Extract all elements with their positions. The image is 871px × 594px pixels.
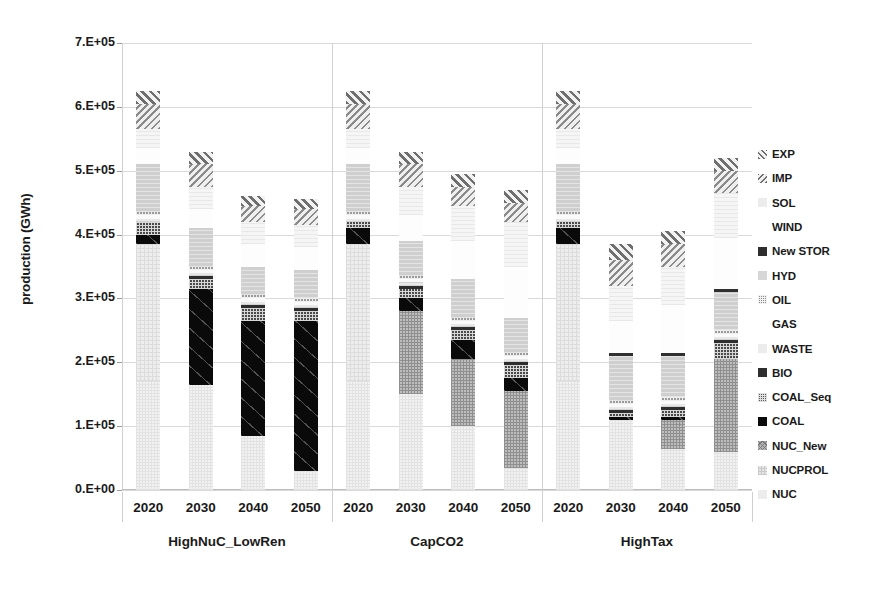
x-axis-group-tick	[332, 492, 333, 522]
x-axis: 2020203020402050202020302040205020202030…	[122, 492, 752, 592]
bar-segment-hyd	[399, 241, 423, 276]
bar-segment-coal-seq	[189, 279, 213, 289]
bar-stack[interactable]	[399, 43, 423, 490]
legend-item[interactable]: OIL	[758, 288, 870, 312]
bar-segment-imp	[609, 260, 633, 286]
bar-segment-imp	[241, 206, 265, 222]
legend-item[interactable]: WASTE	[758, 336, 870, 360]
legend-item[interactable]: WIND	[758, 215, 870, 239]
y-tick-label: 6.E+05	[75, 99, 115, 113]
x-axis-year-label: 2030	[186, 500, 216, 515]
bar-segment-exp	[556, 91, 580, 104]
bar-stack[interactable]	[241, 43, 265, 490]
gridline	[122, 298, 752, 299]
bar-segment-nuc	[399, 394, 423, 490]
legend-item[interactable]: EXP	[758, 142, 870, 166]
bar-stack[interactable]	[661, 43, 685, 490]
bar-segment-hyd	[714, 292, 738, 330]
x-axis-group-label: CapCO2	[410, 534, 463, 549]
legend-label: COAL	[772, 415, 804, 427]
bar-segment-exp	[189, 152, 213, 165]
bar-segment-wind	[504, 267, 528, 318]
y-tick-label: 0.E+00	[75, 482, 115, 496]
legend-label: GAS	[772, 318, 797, 330]
bar-segment-sol	[504, 222, 528, 267]
bar-segment-waste	[451, 324, 475, 327]
bar-segment-sol	[451, 206, 475, 241]
group-separator	[332, 43, 333, 513]
bar-segment-wind	[294, 247, 318, 269]
bar-segment-imp	[661, 244, 685, 266]
bar-segment-wind	[661, 305, 685, 353]
bar-stack[interactable]	[346, 43, 370, 490]
y-tick-label: 2.E+05	[75, 354, 115, 368]
legend-label: NUCPROL	[772, 464, 828, 476]
bar-stack[interactable]	[451, 43, 475, 490]
bar-segment-nuc	[189, 385, 213, 490]
bar-stack[interactable]	[714, 43, 738, 490]
legend-item[interactable]: BIO	[758, 361, 870, 385]
x-axis-group-tick	[752, 492, 753, 522]
gridline	[122, 426, 752, 427]
bar-segment-new-stor	[609, 353, 633, 356]
bar-segment-gas	[294, 302, 318, 305]
legend-item[interactable]: NUC_New	[758, 434, 870, 458]
bar-segment-nuc	[661, 449, 685, 491]
bar-segment-sol	[399, 187, 423, 216]
bar-segment-nuc	[714, 452, 738, 490]
bar-segment-coal-seq	[661, 410, 685, 416]
bar-segment-sol	[661, 267, 685, 305]
bar-segment-wind	[136, 148, 160, 164]
y-tick-mark	[117, 298, 122, 299]
legend-item[interactable]: New STOR	[758, 239, 870, 263]
y-tick-label: 4.E+05	[75, 227, 115, 241]
bar-stack[interactable]	[136, 43, 160, 490]
bar-segment-nuc-new	[714, 359, 738, 452]
y-tick-mark	[117, 43, 122, 44]
bar-segment-sol	[136, 129, 160, 148]
bar-segment-waste	[609, 407, 633, 410]
bar-stack[interactable]	[609, 43, 633, 490]
bar-segment-nucprol	[556, 244, 580, 381]
bar-stack[interactable]	[556, 43, 580, 490]
legend-item[interactable]: COAL	[758, 409, 870, 433]
legend-item[interactable]: SOL	[758, 191, 870, 215]
legend-label: NUC_New	[772, 440, 826, 452]
gridline	[122, 171, 752, 172]
legend-swatch-icon	[758, 368, 767, 377]
legend-swatch-icon	[758, 174, 767, 183]
legend-swatch-icon	[758, 417, 767, 426]
bar-segment-coal	[136, 235, 160, 245]
bar-segment-coal	[346, 228, 370, 244]
legend-item[interactable]: GAS	[758, 312, 870, 336]
x-axis-year-label: 2030	[606, 500, 636, 515]
bar-segment-oil	[346, 212, 370, 215]
bar-stack[interactable]	[189, 43, 213, 490]
bar-segment-exp	[399, 152, 423, 165]
bar-segment-hyd	[504, 318, 528, 353]
y-axis-title-text: production (GWh)	[18, 193, 33, 305]
bar-segment-hyd	[556, 164, 580, 212]
bar-stack[interactable]	[294, 43, 318, 490]
bar-segment-nuc-new	[504, 391, 528, 468]
legend-label: HYD	[772, 270, 796, 282]
bar-segment-gas	[136, 215, 160, 218]
bar-segment-coal-seq	[346, 222, 370, 228]
bar-segment-hyd	[346, 164, 370, 212]
bar-segment-wind	[556, 148, 580, 164]
y-axis-title: production (GWh)	[18, 0, 33, 90]
bar-segment-imp	[451, 187, 475, 206]
bar-segment-waste	[504, 359, 528, 362]
bar-segment-waste	[661, 404, 685, 407]
bar-segment-wind	[189, 209, 213, 228]
plot-area: 7.E+056.E+055.E+054.E+053.E+052.E+051.E+…	[122, 43, 752, 490]
legend-item[interactable]: HYD	[758, 263, 870, 287]
bar-segment-imp	[189, 164, 213, 186]
bar-stack[interactable]	[504, 43, 528, 490]
bar-segment-bio	[399, 286, 423, 289]
legend-item[interactable]: IMP	[758, 166, 870, 190]
legend-item[interactable]: NUC	[758, 482, 870, 506]
legend-label: WASTE	[772, 343, 812, 355]
legend-item[interactable]: COAL_Seq	[758, 385, 870, 409]
legend-item[interactable]: NUCPROL	[758, 458, 870, 482]
